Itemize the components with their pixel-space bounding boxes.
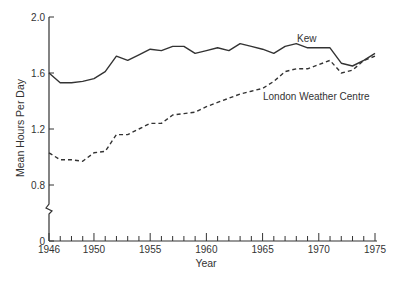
series-layer — [49, 44, 375, 162]
series-line-london-weather-centre — [49, 56, 375, 161]
line-chart: 00.81.21.62.0194619501955196019651970197… — [0, 0, 401, 282]
x-axis-title: Year — [195, 257, 217, 269]
labels-layer: Mean Hours Per Day Year Kew London Weath… — [14, 33, 370, 269]
x-tick-label: 1946 — [38, 244, 61, 255]
axes: 00.81.21.62.0194619501955196019651970197… — [31, 12, 386, 256]
x-tick-label: 1965 — [251, 244, 274, 255]
x-tick-label: 1970 — [308, 244, 331, 255]
x-tick-label: 1960 — [195, 244, 218, 255]
y-tick-label: 0.8 — [31, 180, 45, 191]
series-line-kew — [49, 44, 375, 83]
series-label-kew: Kew — [297, 33, 317, 44]
y-tick-label: 1.6 — [31, 68, 45, 79]
series-label-london-weather-centre: London Weather Centre — [263, 91, 370, 102]
x-tick-label: 1955 — [139, 244, 162, 255]
x-tick-label: 1950 — [83, 244, 106, 255]
y-tick-label: 2.0 — [31, 12, 45, 23]
x-tick-label: 1975 — [364, 244, 387, 255]
y-tick-label: 1.2 — [31, 124, 45, 135]
y-axis-title: Mean Hours Per Day — [14, 78, 26, 177]
